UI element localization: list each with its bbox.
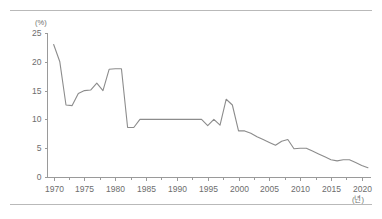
x-tick-label: 2000 xyxy=(230,184,249,194)
y-axis-group xyxy=(45,33,48,178)
chart-plot-area: 0510152025 19701975198019851990199520002… xyxy=(0,0,382,219)
x-tick-label: 1980 xyxy=(106,184,125,194)
chart-canvas: 0510152025 19701975198019851990199520002… xyxy=(0,0,382,219)
x-axis-group xyxy=(48,177,372,181)
y-tick-labels-group: 0510152025 xyxy=(32,28,42,182)
y-tick-label: 20 xyxy=(32,57,42,67)
y-tick-label: 15 xyxy=(32,86,42,96)
x-tick-label: 2015 xyxy=(322,184,341,194)
x-tick-label: 2010 xyxy=(291,184,310,194)
y-tick-label: 0 xyxy=(37,172,42,182)
x-tick-label: 1995 xyxy=(199,184,218,194)
x-axis-unit-label: (년) xyxy=(352,194,364,204)
x-tick-label: 1990 xyxy=(168,184,187,194)
y-axis-unit-label: (%) xyxy=(35,18,47,27)
x-tick-label: 2005 xyxy=(260,184,279,194)
y-tick-label: 25 xyxy=(32,28,42,38)
line-chart-figure: 0510152025 19701975198019851990199520002… xyxy=(0,0,382,219)
y-tick-label: 10 xyxy=(32,114,42,124)
data-series-line xyxy=(54,45,368,168)
y-tick-label: 5 xyxy=(37,143,42,153)
x-tick-labels-group: 1970197519801985199019952000200520102015… xyxy=(45,184,372,194)
x-tick-label: 1975 xyxy=(75,184,94,194)
x-tick-label: 2020 xyxy=(353,184,372,194)
x-tick-label: 1970 xyxy=(45,184,64,194)
series-group xyxy=(54,45,368,168)
x-tick-label: 1985 xyxy=(137,184,156,194)
